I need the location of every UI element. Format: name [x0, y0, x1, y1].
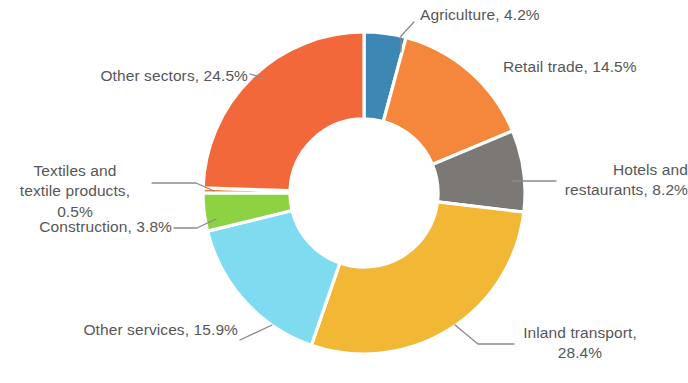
slice-label-other-sectors: Other sectors, 24.5%	[0, 66, 248, 86]
slice-label-retail-trade: Retail trade, 14.5%	[503, 57, 637, 77]
slice-label-textiles: Textiles and textile products, 0.5%	[0, 161, 150, 222]
leader-line-other-sectors	[250, 74, 264, 78]
leader-line-agriculture	[401, 22, 414, 52]
slice-label-agriculture: Agriculture, 4.2%	[420, 5, 540, 25]
leader-line-construction	[174, 219, 216, 228]
leader-line-textiles	[152, 183, 214, 191]
donut-chart: Agriculture, 4.2% Retail trade, 14.5% Ho…	[0, 0, 688, 383]
slice-label-inland-transport: Inland transport, 28.4%	[472, 323, 688, 364]
leader-line-other-services	[240, 325, 272, 340]
slice-label-hotels-restaurants: Hotels and restaurants, 8.2%	[396, 160, 688, 201]
slice-label-other-services: Other services, 15.9%	[0, 320, 238, 340]
